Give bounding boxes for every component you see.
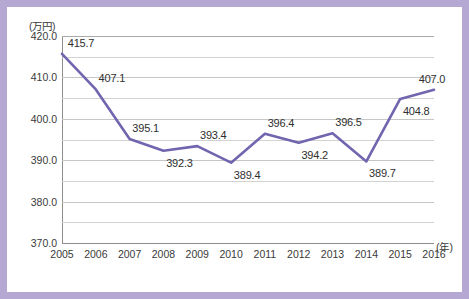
y-axis-tick-label: 390.0 [31,154,57,166]
y-axis-tick-label: 410.0 [31,71,57,83]
x-axis-tick-label: 2013 [321,248,344,260]
data-point-label: 396.5 [335,116,362,128]
data-point-label: 389.7 [369,167,396,179]
y-axis-tick-label: 420.0 [31,30,57,42]
data-point-label: 395.1 [132,122,159,134]
x-axis-tick-label: 2011 [254,248,277,260]
data-point-label: 393.4 [200,129,227,141]
x-axis-tick-label: 2007 [118,248,141,260]
data-point-label: 407.1 [99,72,126,84]
data-point-label: 415.7 [68,37,95,49]
plot-area: 420.0410.0400.0390.0380.0370.0 200520062… [62,36,434,243]
data-point-label: 392.3 [166,157,193,169]
x-axis-tick-label: 2010 [219,248,242,260]
x-axis-tick-label: 2014 [355,248,378,260]
series-line [62,36,434,243]
x-axis-unit-label: (年) [436,239,453,254]
data-point-label: 396.4 [268,117,295,129]
x-axis-tick-label: 2009 [186,248,209,260]
y-axis-tick-label: 380.0 [31,196,57,208]
data-point-label: 394.2 [301,149,328,161]
x-axis-tick-label: 2015 [388,248,411,260]
data-point-label: 407.0 [419,73,446,85]
y-axis-tick-label: 400.0 [31,113,57,125]
gridline [62,243,434,244]
x-axis-tick-label: 2012 [287,248,310,260]
data-point-label: 389.4 [234,169,261,181]
chart-frame: (万円) 420.0410.0400.0390.0380.0370.0 2005… [0,0,469,299]
x-axis-tick-label: 2006 [84,248,107,260]
x-axis-tick-label: 2008 [152,248,175,260]
data-point-label: 404.8 [403,105,430,117]
x-axis-tick-label: 2005 [50,248,73,260]
chart-canvas: (万円) 420.0410.0400.0390.0380.0370.0 2005… [7,7,462,292]
